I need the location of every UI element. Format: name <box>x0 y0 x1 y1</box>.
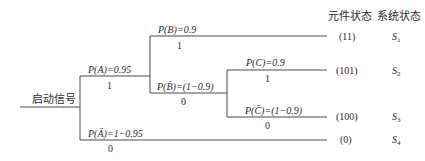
outcome-system-state-3: S3 <box>392 111 401 124</box>
prob-label-c: P(C)=0.9 <box>245 57 285 69</box>
svg-text:S1: S1 <box>392 31 401 44</box>
svg-text:S2: S2 <box>392 65 401 78</box>
prob-label-a-bar: P(Ā)=1−0.95 <box>87 128 143 140</box>
root-label: 启动信号 <box>32 93 76 106</box>
header-component-state: 元件状态 <box>328 9 372 23</box>
svg-text:S4: S4 <box>392 134 401 147</box>
header-system-state: 系统状态 <box>377 9 421 23</box>
outcome-system-state-4: S4 <box>392 134 401 147</box>
prob-label-b-bar: P(B̄)=(1−0.9) <box>156 81 214 93</box>
state-label-c-bar: 0 <box>265 120 270 131</box>
prob-label-b: P(B)=0.9 <box>157 24 196 36</box>
prob-label-c-bar: P(C̄)=(1−0.9) <box>244 105 303 117</box>
state-label-a: 1 <box>107 80 112 91</box>
state-label-b: 1 <box>177 40 182 51</box>
prob-label-a: P(A)=0.95 <box>87 64 131 76</box>
outcome-component-state-3: (100) <box>336 111 358 123</box>
outcome-component-state-2: (101) <box>336 65 358 77</box>
outcome-system-state-1: S1 <box>392 31 401 44</box>
state-label-c: 1 <box>265 73 270 84</box>
state-label-b-bar: 0 <box>181 96 186 107</box>
event-tree-diagram: 启动信号 P(A)=0.95 1 P(Ā)=1−0.95 0 P(B)=0.9 … <box>0 0 425 161</box>
outcome-component-state-4: (0) <box>340 134 352 146</box>
outcome-system-state-2: S2 <box>392 65 401 78</box>
state-label-a-bar: 0 <box>108 143 113 154</box>
outcome-component-state-1: (11) <box>339 31 355 43</box>
svg-text:S3: S3 <box>392 111 401 124</box>
